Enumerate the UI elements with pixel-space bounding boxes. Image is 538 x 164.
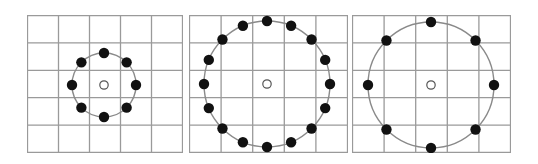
grid-svg: [189, 15, 348, 153]
sample-point: [238, 21, 248, 31]
sample-point: [121, 102, 131, 112]
sample-point: [262, 16, 272, 26]
sample-point: [426, 17, 436, 27]
diagram-panel-1: [27, 15, 183, 153]
sample-point: [99, 112, 109, 122]
sample-point: [76, 57, 86, 67]
sample-point: [470, 35, 480, 45]
sample-point: [262, 142, 272, 152]
sample-point: [217, 123, 227, 133]
sample-point: [199, 79, 209, 89]
sample-point: [76, 102, 86, 112]
sample-point: [204, 55, 214, 65]
sample-point: [99, 48, 109, 58]
sample-point: [363, 80, 373, 90]
sample-point: [286, 21, 296, 31]
sample-point: [121, 57, 131, 67]
sample-point: [320, 55, 330, 65]
sample-point: [67, 80, 77, 90]
sample-point: [381, 124, 391, 134]
grid-svg: [352, 15, 511, 153]
diagram-panel-2: [189, 15, 348, 153]
sample-point: [325, 79, 335, 89]
sample-point: [286, 137, 296, 147]
sample-point: [381, 35, 391, 45]
sample-point: [306, 34, 316, 44]
sample-point: [489, 80, 499, 90]
sample-point: [306, 123, 316, 133]
sample-point: [217, 34, 227, 44]
sample-point: [320, 103, 330, 113]
center-point: [100, 81, 108, 89]
grid-svg: [27, 15, 183, 153]
sample-point: [131, 80, 141, 90]
sample-point: [426, 143, 436, 153]
sample-point: [238, 137, 248, 147]
center-point: [263, 80, 271, 88]
sample-point: [204, 103, 214, 113]
sample-point: [470, 124, 480, 134]
center-point: [427, 81, 435, 89]
diagram-panel-3: [352, 15, 511, 153]
